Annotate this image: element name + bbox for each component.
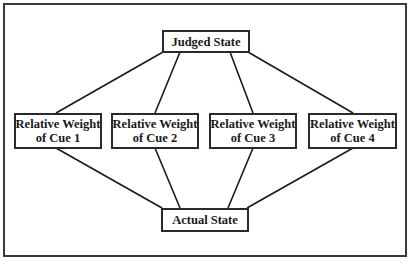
edge-cue3-actual (228, 148, 253, 208)
cue-2-node: Relative Weight of Cue 2 (111, 113, 199, 149)
actual-state-label: Actual State (172, 213, 238, 227)
cue-1-line1: Relative Weight (16, 117, 101, 131)
edge-judged-cue1 (56, 52, 163, 113)
edge-cue2-actual (155, 148, 180, 208)
edge-judged-cue3 (230, 52, 253, 113)
edge-cue1-actual (56, 148, 162, 208)
cue-2-line2: of Cue 2 (133, 131, 177, 145)
cue-3-line1: Relative Weight (211, 117, 296, 131)
cue-2-line1: Relative Weight (113, 117, 198, 131)
cue-4-node: Relative Weight of Cue 4 (308, 113, 397, 149)
actual-state-node: Actual State (161, 208, 249, 232)
cue-3-node: Relative Weight of Cue 3 (209, 113, 297, 149)
edge-judged-cue4 (248, 52, 353, 113)
cue-4-line1: Relative Weight (310, 117, 395, 131)
edge-judged-cue2 (155, 52, 180, 113)
cue-1-line2: of Cue 1 (36, 131, 80, 145)
cue-1-node: Relative Weight of Cue 1 (14, 113, 102, 149)
judged-state-label: Judged State (171, 35, 240, 49)
cue-3-line2: of Cue 3 (231, 131, 275, 145)
judged-state-node: Judged State (162, 30, 250, 53)
edge-cue4-actual (247, 148, 353, 208)
cue-4-line2: of Cue 4 (330, 131, 374, 145)
